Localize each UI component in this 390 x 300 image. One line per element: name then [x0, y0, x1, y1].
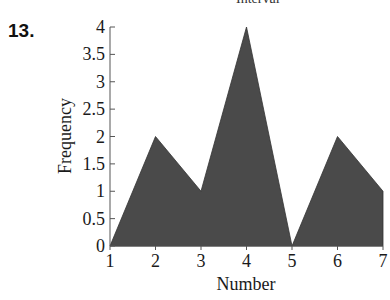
y-tick-label: 3 [96, 72, 105, 92]
frequency-polygon-chart: 00.511.522.533.54 1234567 Number Frequen… [0, 0, 390, 300]
x-tick-label: 2 [151, 251, 160, 271]
y-tick-label: 2 [96, 127, 105, 147]
y-tick-label: 1.5 [83, 154, 106, 174]
x-tick-label: 4 [242, 251, 251, 271]
x-tick-label: 6 [333, 251, 342, 271]
x-tick-label: 5 [288, 251, 297, 271]
y-tick-label: 0 [96, 236, 105, 256]
x-axis-title: Number [217, 274, 276, 294]
area-fill [110, 27, 383, 246]
y-tick-label: 4 [96, 17, 105, 37]
x-tick-label: 1 [106, 251, 115, 271]
y-tick-label: 2.5 [83, 99, 106, 119]
x-axis-ticks: 1234567 [106, 246, 388, 271]
x-tick-label: 3 [197, 251, 206, 271]
frequency-area [110, 27, 383, 246]
y-tick-label: 1 [96, 181, 105, 201]
y-tick-label: 3.5 [83, 44, 106, 64]
y-axis-title: Frequency [55, 98, 75, 174]
x-tick-label: 7 [379, 251, 388, 271]
y-tick-label: 0.5 [83, 209, 106, 229]
